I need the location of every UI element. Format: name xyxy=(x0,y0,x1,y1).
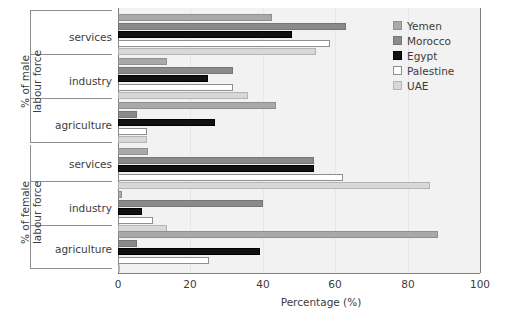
bar-yemen-male-industry xyxy=(118,58,167,65)
legend-item-morocco: Morocco xyxy=(393,33,454,48)
xtick-20: 20 xyxy=(183,278,196,290)
bar-yemen-female-services xyxy=(118,148,148,155)
separator xyxy=(30,268,112,269)
legend-label-uae: UAE xyxy=(407,80,429,92)
bar-uae-male-services xyxy=(118,48,316,55)
bar-morocco-female-industry xyxy=(118,200,263,207)
category-label-male-agriculture: agriculture xyxy=(55,119,112,131)
legend-swatch-morocco xyxy=(393,36,402,45)
bar-morocco-male-industry xyxy=(118,67,233,74)
legend-label-morocco: Morocco xyxy=(407,35,451,47)
bar-egypt-female-agriculture xyxy=(118,248,260,255)
bar-egypt-female-industry xyxy=(118,208,142,215)
x-axis-title: Percentage (%) xyxy=(0,296,512,308)
bar-palestine-male-agriculture xyxy=(118,128,147,135)
legend: Yemen Morocco Egypt Palestine UAE xyxy=(393,18,454,93)
panel-label-female-line2: labour force xyxy=(30,181,42,244)
category-label-male-industry: industry xyxy=(69,75,112,87)
bar-morocco-female-agriculture xyxy=(118,240,137,247)
bar-morocco-male-services xyxy=(118,23,346,30)
category-label-column: services industry agriculture services i… xyxy=(0,0,112,323)
legend-item-egypt: Egypt xyxy=(393,48,454,63)
legend-item-palestine: Palestine xyxy=(393,63,454,78)
bar-egypt-male-agriculture xyxy=(118,119,215,126)
legend-label-egypt: Egypt xyxy=(407,50,437,62)
legend-swatch-palestine xyxy=(393,66,402,75)
panel-label-male-line1: % of male xyxy=(19,55,31,108)
bar-yemen-female-agriculture xyxy=(118,231,438,238)
bar-palestine-female-services xyxy=(118,174,343,181)
bar-morocco-female-services xyxy=(118,157,314,164)
bar-egypt-male-services xyxy=(118,31,292,38)
bar-uae-male-agriculture xyxy=(118,136,147,143)
bar-yemen-male-services xyxy=(118,14,272,21)
bar-egypt-male-industry xyxy=(118,75,208,82)
xtick-100: 100 xyxy=(470,278,490,290)
legend-swatch-uae xyxy=(393,81,402,90)
panel-label-male-line2: labour force xyxy=(30,50,42,113)
bar-palestine-female-industry xyxy=(118,217,153,224)
xtick-80: 80 xyxy=(401,278,414,290)
bar-palestine-male-industry xyxy=(118,84,233,91)
bar-yemen-male-agriculture xyxy=(118,102,276,109)
panel-label-female: % of female labour force xyxy=(20,158,43,268)
category-label-male-services: services xyxy=(69,31,112,43)
category-label-female-services: services xyxy=(69,158,112,170)
bar-palestine-male-services xyxy=(118,40,330,47)
bar-uae-female-agriculture xyxy=(118,265,120,272)
xtick-40: 40 xyxy=(256,278,269,290)
xtick-0: 0 xyxy=(115,278,122,290)
bar-uae-male-industry xyxy=(118,92,248,99)
legend-label-yemen: Yemen xyxy=(407,20,442,32)
x-axis-title-text: Percentage (%) xyxy=(281,296,362,308)
panel-label-male: % of male labour force xyxy=(20,27,43,137)
legend-label-palestine: Palestine xyxy=(407,65,454,77)
legend-swatch-yemen xyxy=(393,21,402,30)
bar-egypt-female-services xyxy=(118,165,314,172)
bar-uae-female-services xyxy=(118,182,430,189)
bar-palestine-female-agriculture xyxy=(118,257,209,264)
separator xyxy=(30,10,112,11)
legend-item-yemen: Yemen xyxy=(393,18,454,33)
x-axis-line xyxy=(118,273,480,274)
separator xyxy=(30,142,112,143)
panel-label-female-line1: % of female xyxy=(19,181,31,244)
legend-swatch-egypt xyxy=(393,51,402,60)
category-label-female-industry: industry xyxy=(69,202,112,214)
bar-yemen-female-industry xyxy=(118,191,122,198)
legend-item-uae: UAE xyxy=(393,78,454,93)
chart-root: services industry agriculture services i… xyxy=(0,0,512,323)
category-label-female-agriculture: agriculture xyxy=(55,243,112,255)
bar-morocco-male-agriculture xyxy=(118,111,137,118)
xtick-60: 60 xyxy=(328,278,341,290)
